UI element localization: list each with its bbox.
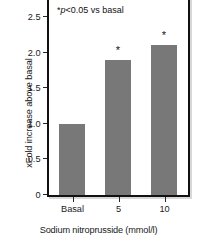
x-tick-mark <box>73 197 74 202</box>
y-tick-1.0: 1.0 <box>28 117 47 129</box>
x-tick-label-basal: Basal <box>48 204 98 214</box>
y-tick-0.5: 0.5 <box>28 153 47 165</box>
y-tick-label: 1.5 <box>28 82 41 94</box>
y-tick-0: 0 <box>35 189 47 201</box>
bar-5 <box>105 60 131 195</box>
significance-star-5: * <box>105 46 131 54</box>
bar-10 <box>151 45 177 195</box>
plot-frame: *p<0.05 vs basal ** <box>47 0 190 197</box>
y-tick-label: 0.5 <box>28 153 41 165</box>
x-tick-label-10: 10 <box>140 204 190 214</box>
y-tick-2.0: 2.0 <box>28 46 47 58</box>
figure-panel: xFold increase above basal 00.51.01.52.0… <box>0 0 197 241</box>
y-tick-label: 2.0 <box>28 47 41 59</box>
y-tick-2.5: 2.5 <box>28 10 47 22</box>
significance-star-10: * <box>151 31 177 39</box>
x-axis-title: Sodium nitroprusside (mmol/l) <box>0 225 197 235</box>
x-tick-label-5: 5 <box>94 204 144 214</box>
bar-basal <box>59 124 85 195</box>
x-tick-mark <box>119 197 120 202</box>
y-tick-label: 2.5 <box>28 11 41 23</box>
y-tick-label: 1.0 <box>28 118 41 130</box>
x-tick-mark <box>165 197 166 202</box>
y-tick-label: 0 <box>35 189 40 201</box>
plot-area: ** <box>49 0 188 195</box>
y-tick-1.5: 1.5 <box>28 82 47 94</box>
